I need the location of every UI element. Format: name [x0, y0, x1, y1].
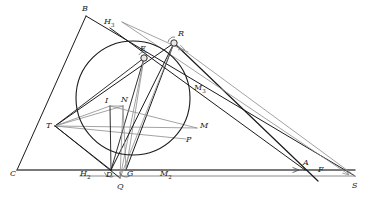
point-label-P: P [186, 136, 191, 144]
point-label-M3: M3 [194, 84, 206, 94]
line-T-R [55, 43, 174, 126]
point-label-C: C [10, 170, 16, 178]
point-label-A: A [303, 159, 309, 167]
point-label-H2: H2 [80, 170, 90, 180]
point-label-I: I [105, 97, 108, 105]
line-T-M [55, 126, 197, 128]
line-T-I [55, 106, 110, 126]
point-label-T: T [46, 122, 51, 130]
line-R-S-gray [174, 43, 355, 176]
point-label-subscript-M3: 3 [202, 88, 206, 94]
point-label-subscript-M2: 2 [168, 174, 172, 180]
line-T-E [55, 58, 144, 126]
line-I-D [110, 106, 111, 170]
line-B-C [17, 16, 86, 170]
point-label-M2: M2 [160, 170, 172, 180]
point-label-subscript-H2: 2 [87, 174, 91, 180]
geometry-figure: BH3REM3INTMPCH2DGQM2AFS [0, 0, 377, 199]
line-T-N [55, 106, 123, 126]
line-topray-S [122, 22, 348, 174]
point-label-M: M [200, 122, 208, 130]
point-label-R: R [178, 30, 184, 38]
point-label-G: G [127, 170, 133, 178]
point-marker-E [141, 55, 147, 61]
line-T-D [55, 126, 111, 170]
point-label-H3: H3 [104, 18, 114, 28]
point-label-subscript-H3: 3 [111, 22, 115, 28]
point-label-B: B [82, 5, 88, 13]
point-label-E: E [140, 45, 146, 53]
point-label-N: N [121, 96, 128, 104]
point-label-Q: Q [117, 183, 124, 191]
point-label-D: D [106, 171, 112, 179]
line-R-A [174, 43, 318, 181]
point-marker-R [171, 40, 177, 46]
point-label-F: F [318, 166, 324, 174]
point-label-S: S [352, 182, 357, 190]
